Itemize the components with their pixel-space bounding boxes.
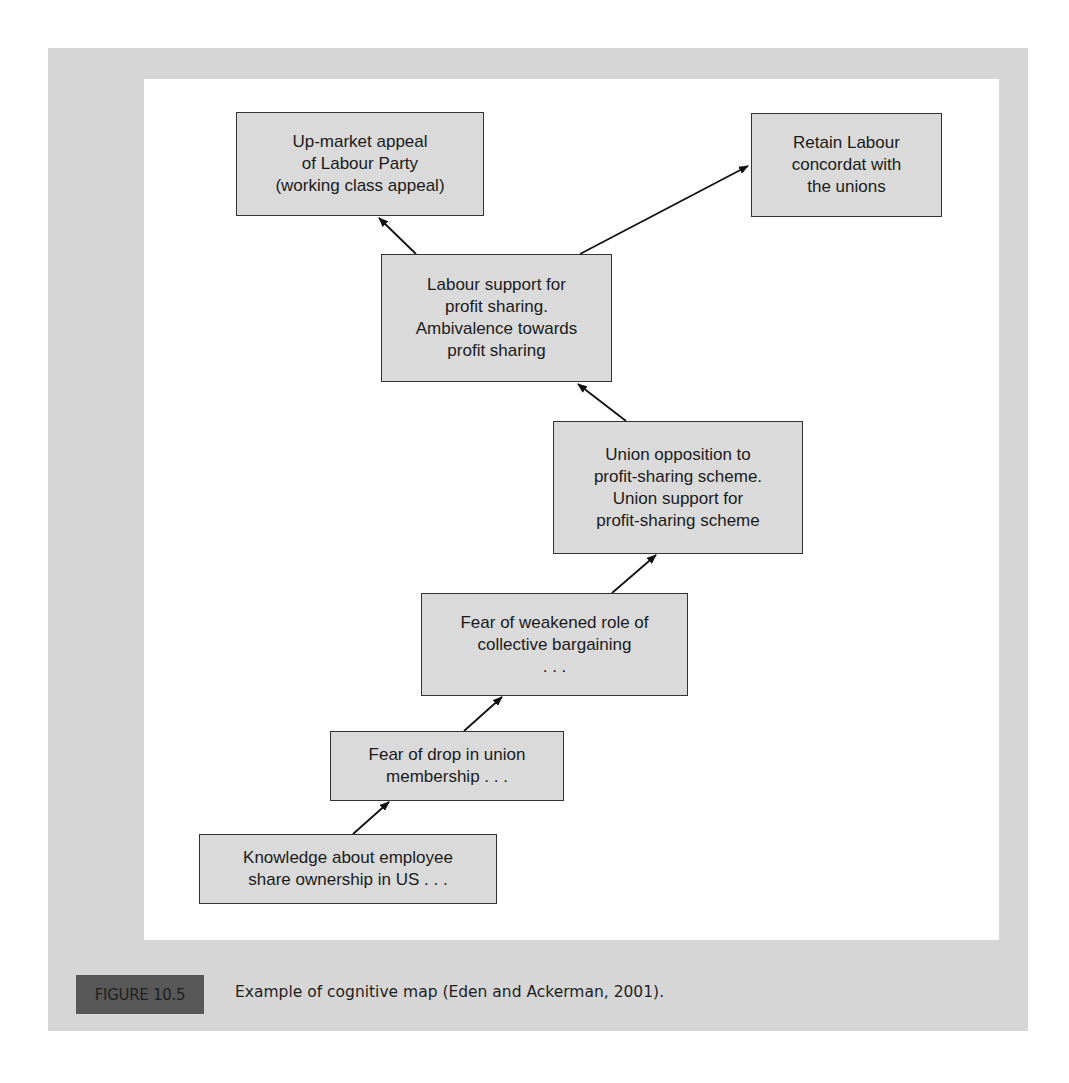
node-union-opposition: Union opposition to profit-sharing schem… (553, 421, 803, 554)
node-labour-support: Labour support for profit sharing. Ambiv… (381, 254, 612, 382)
node-fear-drop-membership: Fear of drop in union membership . . . (330, 731, 564, 801)
figure-number-label: FIGURE 10.5 (76, 975, 204, 1014)
node-knowledge-share-ownership: Knowledge about employee share ownership… (199, 834, 497, 904)
node-upmarket-appeal: Up-market appeal of Labour Party (workin… (236, 112, 484, 216)
figure-caption: Example of cognitive map (Eden and Acker… (235, 983, 664, 1001)
node-fear-weakened-bargaining: Fear of weakened role of collective barg… (421, 593, 688, 696)
node-retain-concordat: Retain Labour concordat with the unions (751, 113, 942, 217)
